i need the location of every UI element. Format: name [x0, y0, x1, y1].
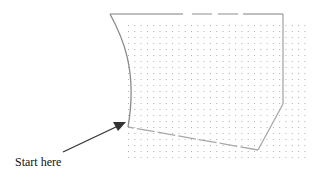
grid-dot [235, 139, 236, 140]
grid-dot [210, 151, 211, 152]
grid-dot [185, 91, 186, 92]
grid-dot [260, 61, 261, 62]
grid-dot [128, 79, 129, 80]
grid-dot [128, 103, 129, 104]
grid-dot [286, 133, 287, 134]
grid-dot [248, 37, 249, 38]
grid-dot [178, 91, 179, 92]
grid-dot [134, 103, 135, 104]
grid-dot [172, 121, 173, 122]
grid-dot [128, 115, 129, 116]
grid-dot [141, 109, 142, 110]
grid-dot [160, 43, 161, 44]
grid-dot [248, 91, 249, 92]
shape-outline [110, 14, 283, 150]
grid-dot [204, 127, 205, 128]
start-arrow [63, 122, 126, 152]
grid-dot [254, 133, 255, 134]
grid-dot [166, 61, 167, 62]
grid-dot [147, 157, 148, 158]
grid-dot [292, 97, 293, 98]
grid-dot [248, 109, 249, 110]
grid-dot [229, 139, 230, 140]
grid-dot [172, 103, 173, 104]
grid-dot [128, 157, 129, 158]
grid-dot [185, 103, 186, 104]
grid-dot [216, 43, 217, 44]
grid-dot [134, 97, 135, 98]
grid-dot [241, 103, 242, 104]
grid-dot [210, 109, 211, 110]
grid-dot [286, 157, 287, 158]
grid-dot [197, 79, 198, 80]
grid-dot [279, 79, 280, 80]
grid-dot [153, 91, 154, 92]
grid-dot [267, 85, 268, 86]
grid-dot [235, 103, 236, 104]
grid-dot [267, 109, 268, 110]
grid-dot [304, 37, 305, 38]
grid-dot [254, 55, 255, 56]
grid-dot [128, 85, 129, 86]
grid-dot [172, 67, 173, 68]
grid-dot [134, 127, 135, 128]
grid-dot [292, 25, 293, 26]
grid-dot [235, 31, 236, 32]
grid-dot [223, 91, 224, 92]
grid-dot [204, 37, 205, 38]
grid-dot [191, 103, 192, 104]
grid-dot [166, 25, 167, 26]
grid-dot [254, 79, 255, 80]
grid-dot [178, 157, 179, 158]
grid-dot [216, 37, 217, 38]
grid-dot [298, 157, 299, 158]
dot-grid [128, 25, 305, 158]
grid-dot [216, 109, 217, 110]
arrow-shaft [63, 126, 118, 152]
grid-dot [172, 139, 173, 140]
grid-dot [166, 55, 167, 56]
grid-dot [254, 145, 255, 146]
grid-dot [229, 121, 230, 122]
grid-dot [210, 127, 211, 128]
grid-dot [298, 115, 299, 116]
grid-dot [216, 61, 217, 62]
grid-dot [267, 97, 268, 98]
grid-dot [298, 133, 299, 134]
grid-dot [153, 73, 154, 74]
grid-dot [166, 157, 167, 158]
grid-dot [172, 127, 173, 128]
grid-dot [216, 139, 217, 140]
grid-dot [166, 97, 167, 98]
grid-dot [229, 157, 230, 158]
grid-dot [223, 73, 224, 74]
grid-dot [267, 127, 268, 128]
grid-dot [241, 67, 242, 68]
grid-dot [191, 109, 192, 110]
grid-dot [292, 157, 293, 158]
grid-dot [166, 79, 167, 80]
grid-dot [286, 37, 287, 38]
grid-dot [147, 25, 148, 26]
grid-dot [191, 67, 192, 68]
grid-dot [248, 43, 249, 44]
grid-dot [273, 151, 274, 152]
grid-dot [160, 91, 161, 92]
grid-dot [229, 31, 230, 32]
grid-dot [141, 85, 142, 86]
grid-dot [260, 79, 261, 80]
grid-dot [178, 73, 179, 74]
grid-dot [241, 127, 242, 128]
grid-dot [153, 139, 154, 140]
grid-dot [304, 127, 305, 128]
grid-dot [286, 25, 287, 26]
grid-dot [229, 49, 230, 50]
grid-dot [178, 79, 179, 80]
grid-dot [191, 157, 192, 158]
grid-dot [191, 61, 192, 62]
grid-dot [298, 103, 299, 104]
grid-dot [185, 61, 186, 62]
grid-dot [134, 139, 135, 140]
grid-dot [292, 55, 293, 56]
grid-dot [160, 127, 161, 128]
